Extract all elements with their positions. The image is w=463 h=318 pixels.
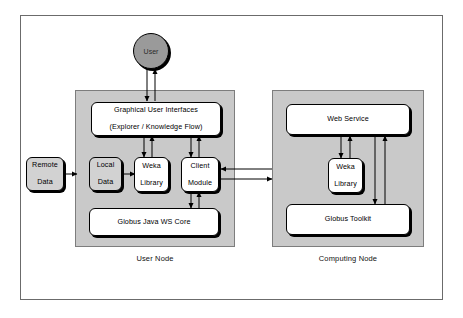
box-client-module-label: Client Module — [184, 162, 216, 188]
box-globus-toolkit[interactable]: Globus Toolkit — [286, 204, 410, 235]
label-computing-node: Computing Node — [272, 254, 424, 263]
box-web-service[interactable]: Web Service — [286, 104, 410, 135]
actor-user[interactable]: User — [133, 33, 169, 69]
box-remote-data-label: Remote Data — [28, 161, 62, 187]
box-local-data-label: Local Data — [93, 161, 119, 187]
box-graphical-user-interfaces[interactable]: Graphical User Interfaces (Explorer / Kn… — [91, 102, 221, 136]
box-client-module[interactable]: Client Module — [181, 157, 219, 192]
box-local-data[interactable]: Local Data — [89, 157, 122, 191]
box-web-service-label: Web Service — [325, 115, 371, 124]
architecture-diagram: User Remote Data Graphical User Interfac… — [0, 0, 463, 318]
box-weka-library-client[interactable]: Weka Library — [134, 157, 169, 192]
box-gui-label: Graphical User Interfaces (Explorer / Kn… — [106, 106, 207, 132]
box-weka-library-server[interactable]: Weka Library — [328, 158, 363, 193]
box-globus-java-ws-core-label: Globus Java WS Core — [115, 218, 192, 227]
box-remote-data[interactable]: Remote Data — [26, 157, 64, 191]
actor-user-label: User — [144, 48, 159, 55]
box-globus-java-ws-core[interactable]: Globus Java WS Core — [89, 208, 219, 236]
box-weka-library-client-label: Weka Library — [136, 162, 167, 188]
box-globus-toolkit-label: Globus Toolkit — [323, 215, 373, 224]
box-weka-library-server-label: Weka Library — [330, 163, 361, 189]
label-user-node: User Node — [75, 254, 235, 263]
